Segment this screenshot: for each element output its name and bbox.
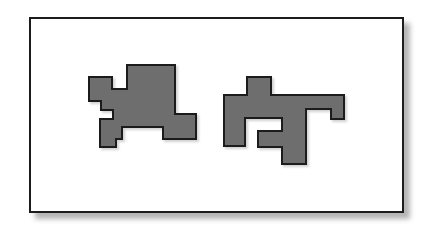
figure-container — [0, 0, 429, 229]
figure-border — [30, 18, 403, 212]
figure-canvas — [0, 0, 429, 229]
